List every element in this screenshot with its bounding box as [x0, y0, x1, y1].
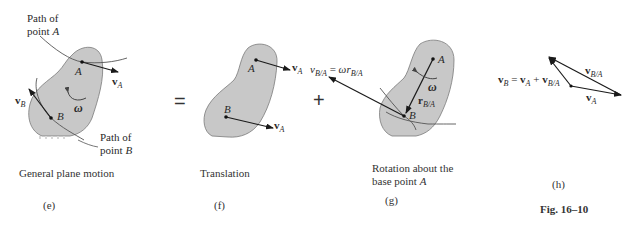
h-origin-dot — [569, 84, 572, 87]
path-a-label-line2: point A — [27, 25, 59, 38]
point-a-dot — [80, 60, 84, 64]
f-point-b-label: B — [224, 103, 231, 116]
equals-operator: = — [174, 90, 186, 113]
path-a-point: A — [52, 25, 59, 37]
path-b-text: point — [100, 144, 125, 156]
velocity-equation: vB = vA + vB/A — [498, 73, 560, 90]
velocity-a-label: vA — [112, 75, 122, 92]
velocity-a-sub: A — [118, 81, 123, 90]
f-point-a-label: A — [248, 62, 255, 75]
figure-number: Fig. 16–10 — [540, 203, 588, 215]
r-ba-label: rB/A — [418, 94, 435, 111]
f-velocity-b-label: vA — [274, 119, 284, 136]
omega-label: ω — [74, 102, 83, 115]
eq-plus: + — [531, 73, 543, 85]
eq-vba-sub: B/A — [548, 79, 560, 88]
figure-drawing — [0, 0, 634, 228]
point-b-label: B — [57, 110, 64, 123]
path-b-point: B — [125, 144, 132, 156]
f-velocity-a-label: vA — [292, 61, 302, 78]
path-b-label-line2: point B — [100, 144, 132, 157]
rel-vel-lhs-sub: B/A — [315, 69, 327, 78]
rel-vel-rhs: ωr — [339, 63, 351, 75]
h-vba-sub: B/A — [591, 70, 603, 79]
point-b-dot — [49, 116, 53, 120]
plus-operator: + — [313, 89, 325, 112]
caption-g: Rotation about the base point A — [372, 162, 453, 188]
panel-e-body — [29, 47, 103, 139]
caption-g-line1: Rotation about the — [372, 162, 453, 175]
caption-g-point: A — [420, 175, 427, 187]
eq-equals: = — [508, 73, 520, 85]
r-ba-sub: B/A — [423, 100, 435, 109]
caption-g-line2: base point A — [372, 175, 453, 188]
path-a-label-line1: Path of — [27, 12, 59, 25]
tag-h: (h) — [552, 178, 565, 190]
panel-f-body — [204, 44, 277, 137]
point-a-label: A — [75, 65, 82, 78]
tag-g: (g) — [385, 194, 398, 206]
path-b-label: Path of point B — [100, 131, 132, 157]
velocity-b-label: vB — [15, 94, 25, 111]
path-b-label-line1: Path of — [100, 131, 132, 144]
tag-f: (f) — [214, 199, 225, 211]
tag-e: (e) — [43, 199, 55, 211]
caption-g-text: base point — [372, 175, 420, 187]
f-velocity-b-sub: A — [280, 125, 285, 134]
g-point-a-dot — [431, 57, 435, 61]
h-va-label: vA — [586, 91, 596, 108]
path-a-text: point — [27, 25, 52, 37]
path-a-label: Path of point A — [27, 12, 59, 38]
caption-f: Translation — [200, 167, 250, 180]
f-velocity-a-sub: A — [298, 67, 303, 76]
path-b-leader — [78, 140, 98, 147]
relative-velocity-equation: vB/A = ωrB/A — [310, 63, 363, 80]
h-vba-label: vB/A — [585, 64, 603, 81]
rel-vel-eq: = — [327, 63, 339, 75]
rel-vel-rhs-sub: B/A — [351, 69, 363, 78]
g-point-b-dot — [402, 114, 406, 118]
h-va-sub: A — [592, 97, 597, 106]
g-point-a-label: A — [438, 53, 445, 66]
g-omega-label: ω — [428, 81, 437, 94]
velocity-b-sub: B — [21, 100, 26, 109]
g-point-b-label: B — [409, 109, 416, 122]
caption-e: General plane motion — [19, 167, 114, 180]
